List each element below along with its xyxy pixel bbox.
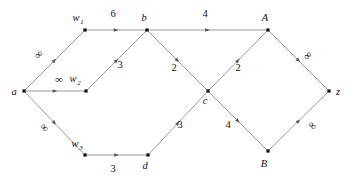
network-diagram: ∞∞∞63342324∞∞ aw1w2w3bdcABz (0, 0, 355, 185)
edge-weight-label: 2 (171, 62, 176, 73)
edge-arrow-markers-layer (52, 28, 302, 157)
node-label-w2: w (69, 73, 76, 84)
edge-direction-marker (114, 28, 119, 32)
edge-direction-marker (205, 28, 210, 32)
node-label-B: B (261, 158, 268, 169)
edge-weight-label: 3 (177, 119, 182, 130)
graph-node-w3 (83, 153, 86, 156)
graph-node-b (145, 28, 148, 31)
edge-weight-label: ∞ (300, 48, 314, 62)
edge-weight-label: ∞ (31, 47, 45, 61)
node-label-z: z (335, 86, 340, 97)
node-label-A: A (261, 12, 269, 23)
graph-node-z (327, 89, 330, 92)
node-label-w1: w (72, 12, 79, 23)
edge-weight-label: 4 (225, 119, 231, 130)
edge-weight-label: 6 (110, 8, 115, 19)
node-label-w3: w (71, 138, 78, 149)
graph-node-c (206, 89, 209, 92)
node-label-c: c (203, 95, 208, 106)
node-label-b: b (141, 12, 146, 23)
edges-layer (24, 30, 329, 155)
node-label-subscript-w3: 3 (78, 144, 83, 152)
network-diagram-canvas: ∞∞∞63342324∞∞ aw1w2w3bdcABz (0, 0, 355, 185)
node-label-d: d (142, 160, 148, 171)
node-labels-layer: aw1w2w3bdcABz (11, 12, 340, 171)
graph-node-w2 (84, 89, 87, 92)
graph-node-d (146, 153, 149, 156)
edge-weight-label: ∞ (306, 118, 320, 132)
edge-weight-label: 4 (202, 8, 208, 19)
edge-weight-label: ∞ (55, 73, 63, 85)
edge-direction-marker (114, 153, 119, 157)
graph-node-A (266, 28, 269, 31)
edge-direction-marker (53, 89, 58, 93)
edge-weight-label: 2 (235, 62, 240, 73)
node-label-a: a (11, 86, 16, 97)
graph-node-a (22, 89, 25, 92)
edge-weight-label: ∞ (38, 120, 52, 134)
node-label-subscript-w1: 1 (80, 18, 84, 26)
node-label-subscript-w2: 2 (77, 79, 81, 87)
graph-node-B (266, 149, 269, 152)
edge-weight-label: 3 (117, 59, 122, 70)
edge-weight-label: 3 (110, 163, 115, 174)
graph-node-w1 (83, 28, 86, 31)
